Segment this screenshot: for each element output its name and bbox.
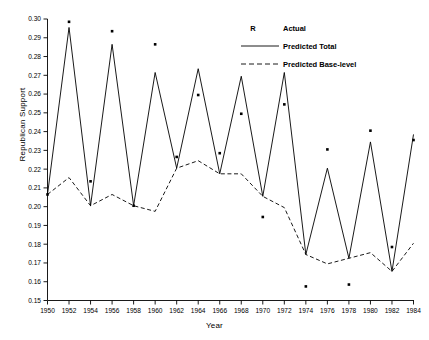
x-tick-label: 1956 [105,307,120,314]
actual-marker [261,216,264,219]
x-tick-label: 1954 [83,307,98,314]
actual-marker [132,204,135,207]
actual-marker [348,283,351,286]
legend-label: Actual [283,24,306,33]
y-tick-label: 0.30 [28,15,41,22]
actual-marker [305,285,308,288]
actual-data-point [111,30,114,33]
legend-label: Predicted Base-level [283,60,356,69]
actual-data-point [68,21,71,24]
actual-data-point [369,129,372,132]
actual-data-point [89,180,92,183]
actual-marker [283,103,286,106]
x-tick-label: 1976 [320,307,335,314]
actual-marker [175,156,178,159]
chart-legend: RActualPredicted TotalPredicted Base-lev… [241,24,356,69]
actual-data-point [240,112,243,115]
actual-data-point [391,246,394,249]
actual-marker [218,152,221,155]
actual-marker [412,139,415,142]
actual-marker [154,43,157,46]
x-tick-label: 1980 [363,307,378,314]
plot-area: 0.150.160.170.180.190.200.210.220.230.24… [0,0,429,340]
y-tick-label: 0.24 [28,128,41,135]
legend-marker-key: R [250,24,256,33]
y-tick-label: 0.18 [28,241,41,248]
predicted-total-line [48,27,414,271]
x-tick-label: 1982 [385,307,400,314]
actual-data-point [261,216,264,219]
actual-marker [369,129,372,132]
actual-data-point [175,156,178,159]
actual-data-point [283,103,286,106]
x-axis-ticks: 1950195219541956195819601962196419661968… [40,301,421,315]
x-axis-title: Year [0,321,429,330]
x-tick-label: 1972 [277,307,292,314]
actual-data-point [154,43,157,46]
actual-data-point [412,139,415,142]
actual-marker [326,148,329,151]
actual-marker [240,112,243,115]
actual-marker [391,246,394,249]
actual-data-point [197,94,200,97]
actual-marker [197,94,200,97]
y-axis-title: Republican Support [18,55,27,195]
actual-data-point [326,148,329,151]
x-tick-label: 1964 [191,307,206,314]
x-tick-label: 1968 [234,307,249,314]
y-tick-label: 0.19 [28,222,41,229]
y-tick-label: 0.17 [28,259,41,266]
y-tick-label: 0.15 [28,297,41,304]
y-tick-label: 0.23 [28,147,41,154]
y-tick-label: 0.29 [28,34,41,41]
x-tick-label: 1966 [212,307,227,314]
actual-marker [46,193,49,196]
actual-data-point [132,204,135,207]
x-tick-label: 1978 [342,307,357,314]
x-tick-label: 1970 [255,307,270,314]
y-axis-ticks: 0.150.160.170.180.190.200.210.220.230.24… [28,15,47,304]
x-tick-label: 1984 [406,307,421,314]
y-tick-label: 0.20 [28,203,41,210]
legend-label: Predicted Total [283,42,337,51]
x-tick-label: 1950 [40,307,55,314]
predicted-base-level-line [48,161,414,272]
y-tick-label: 0.16 [28,278,41,285]
x-tick-label: 1974 [299,307,314,314]
actual-marker [111,30,114,33]
y-tick-label: 0.27 [28,72,41,79]
actual-data-point [305,285,308,288]
x-tick-label: 1958 [126,307,141,314]
actual-data-point [218,152,221,155]
actual-marker [68,21,71,24]
x-tick-label: 1962 [169,307,184,314]
actual-data-point [348,283,351,286]
y-tick-label: 0.26 [28,90,41,97]
actual-marker [89,180,92,183]
data-series-layer [46,21,415,288]
y-tick-label: 0.22 [28,166,41,173]
y-tick-label: 0.28 [28,53,41,60]
x-tick-label: 1952 [62,307,77,314]
x-tick-label: 1960 [148,307,163,314]
actual-data-point [46,193,49,196]
y-tick-label: 0.25 [28,109,41,116]
chart-figure: Republican Support Year 0.150.160.170.18… [0,0,429,340]
y-tick-label: 0.21 [28,184,41,191]
